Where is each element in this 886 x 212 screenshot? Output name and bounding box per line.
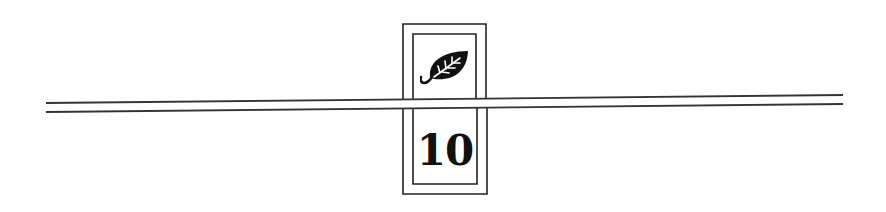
leaf-icon <box>420 49 470 85</box>
map-symbol-canvas: 10 <box>0 0 886 212</box>
double-rail-line <box>46 95 843 112</box>
route-number: 10 <box>413 126 477 176</box>
double-line-and-frame <box>0 0 886 212</box>
